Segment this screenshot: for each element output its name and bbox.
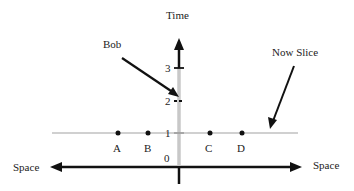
bob-label: Bob	[103, 38, 122, 50]
point-label-c: C	[205, 142, 212, 154]
space-axis-left-arrow-icon	[50, 162, 62, 172]
time-axis-arrow-icon	[174, 38, 184, 50]
spacetime-diagram: 3 2 1 0 A B C D Time Space Space Bob Now…	[0, 0, 354, 191]
space-axis-left-label: Space	[13, 161, 39, 173]
now-slice-arrowhead-icon	[268, 117, 277, 129]
tick-label-2: 2	[165, 95, 171, 107]
point-label-a: A	[113, 142, 121, 154]
tick-label-3: 3	[165, 62, 171, 74]
now-slice-label: Now Slice	[272, 46, 318, 58]
now-slice-pointer-arrow	[273, 66, 294, 121]
point-label-d: D	[237, 142, 245, 154]
space-axis-right-arrow-icon	[290, 162, 302, 172]
space-axis-right-label: Space	[313, 159, 339, 171]
tick-label-0: 0	[164, 152, 170, 164]
point-c	[208, 131, 213, 136]
point-d	[240, 131, 245, 136]
tick-label-1: 1	[165, 127, 171, 139]
point-a	[116, 131, 121, 136]
point-label-b: B	[144, 142, 151, 154]
time-axis-label: Time	[166, 9, 189, 21]
point-b	[146, 131, 151, 136]
